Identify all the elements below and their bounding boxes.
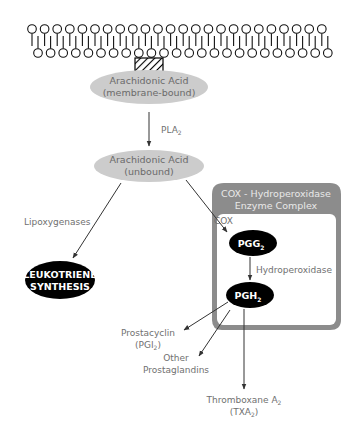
leukotriene-line2: SYNTHESIS xyxy=(30,281,90,292)
thromboxane-line2: (TXA2) xyxy=(230,407,259,418)
cox-label: COX xyxy=(214,216,233,226)
thromboxane-node: Thromboxane A2 (TXA2) xyxy=(206,395,282,418)
membrane-protein-icon xyxy=(135,58,163,72)
aa-membrane-line1: Arachidonic Acid xyxy=(109,75,188,86)
pathway-diagram: Arachidonic Acid (membrane-bound) PLA2 A… xyxy=(0,0,358,433)
prostacyclin-line2: (PGI2) xyxy=(135,340,161,351)
prostacyclin-line1: Prostacyclin xyxy=(121,328,175,338)
leukotriene-line1: LEUKOTRIENE xyxy=(23,269,97,280)
pgg2-node: PGG2 xyxy=(229,230,277,256)
lipoxygenases-label: Lipoxygenases xyxy=(24,217,91,227)
aa-unbound-line1: Arachidonic Acid xyxy=(109,154,188,165)
pla2-label: PLA2 xyxy=(161,125,182,136)
cox-box-header-line2: Enzyme Complex xyxy=(235,200,318,211)
aa-unbound-line2: (unbound) xyxy=(124,166,173,177)
phospholipid-bilayer-icon xyxy=(28,25,332,58)
hydroperoxidase-label: Hydroperoxidase xyxy=(256,265,333,275)
other-pg-line2: Prostaglandins xyxy=(143,365,209,375)
thromboxane-line1: Thromboxane A2 xyxy=(206,395,282,406)
cox-hydroperoxidase-complex: COX - Hydroperoxidase Enzyme Complex xyxy=(212,183,341,330)
other-pg-line1: Other xyxy=(163,353,189,363)
pgh2-node: PGH2 xyxy=(226,282,274,308)
other-prostaglandins-node: Other Prostaglandins xyxy=(143,353,209,375)
arachidonic-acid-unbound-node: Arachidonic Acid (unbound) xyxy=(94,150,204,182)
cox-box-header-line1: COX - Hydroperoxidase xyxy=(221,188,331,199)
prostacyclin-node: Prostacyclin (PGI2) xyxy=(121,328,175,351)
arachidonic-acid-membrane-node: Arachidonic Acid (membrane-bound) xyxy=(90,70,208,104)
aa-membrane-line2: (membrane-bound) xyxy=(103,87,196,98)
leukotriene-synthesis-node: LEUKOTRIENE SYNTHESIS xyxy=(23,261,97,299)
